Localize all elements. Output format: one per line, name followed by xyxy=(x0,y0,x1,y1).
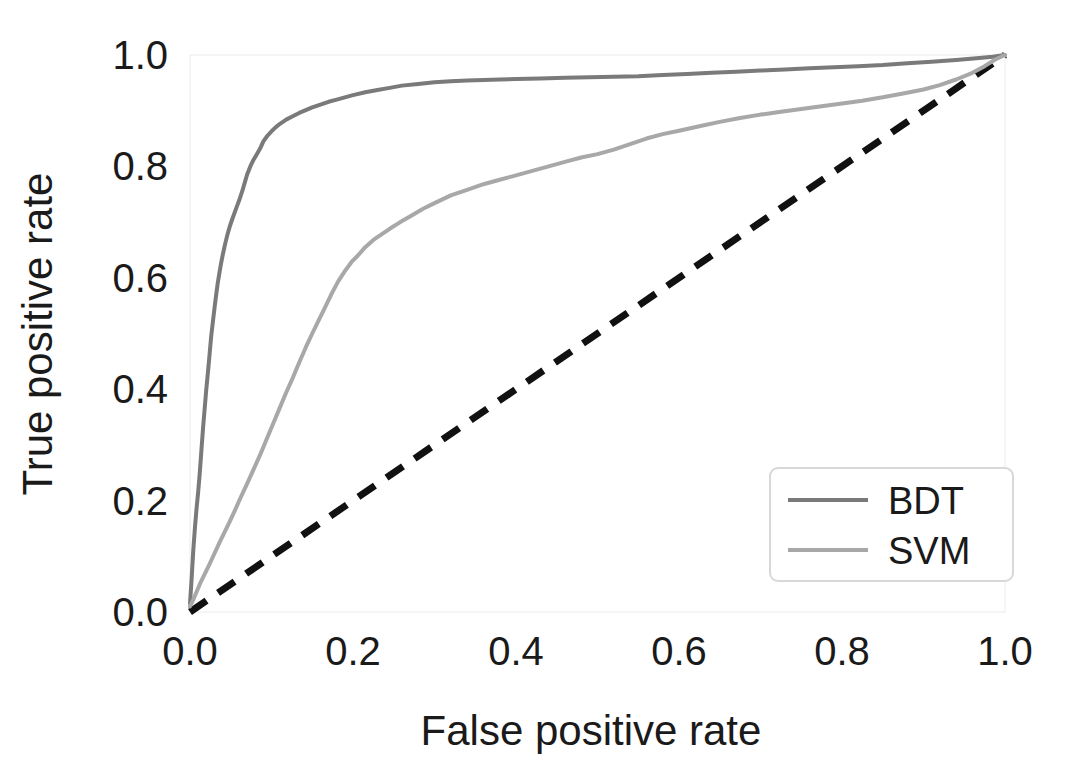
x-tick-label: 1.0 xyxy=(977,629,1033,673)
x-tick-label: 0.8 xyxy=(814,629,870,673)
x-axis-title: False positive rate xyxy=(421,707,762,754)
x-tick-label: 0.2 xyxy=(325,629,381,673)
y-axis-title: True positive rate xyxy=(14,173,61,496)
y-tick-label: 0.8 xyxy=(112,144,168,188)
legend-label-bdt[interactable]: BDT xyxy=(888,480,964,522)
x-tick-label: 0.4 xyxy=(488,629,544,673)
y-tick-label: 0.4 xyxy=(112,367,168,411)
y-tick-label: 0.6 xyxy=(112,256,168,300)
roc-chart-canvas: 0.00.20.40.60.81.0 0.00.20.40.60.81.0 Fa… xyxy=(0,0,1081,769)
y-tick-label: 0.2 xyxy=(112,479,168,523)
legend-label-svm[interactable]: SVM xyxy=(888,530,970,572)
y-tick-label: 1.0 xyxy=(112,33,168,77)
chart-legend[interactable]: BDTSVM xyxy=(770,468,1013,581)
roc-figure: 0.00.20.40.60.81.0 0.00.20.40.60.81.0 Fa… xyxy=(0,0,1081,769)
y-tick-label: 0.0 xyxy=(112,590,168,634)
x-tick-label: 0.6 xyxy=(651,629,707,673)
x-tick-label: 0.0 xyxy=(162,629,218,673)
